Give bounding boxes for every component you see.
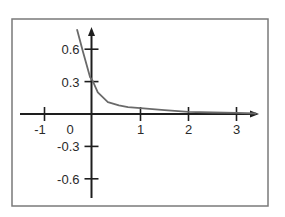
x-tick-label: 1 [137,122,144,137]
y-tick-label: 0.6 [61,42,79,57]
x-tick-label: 3 [233,122,240,137]
y-tick-label: 0.3 [61,75,79,90]
y-tick-label: -0.3 [57,139,79,154]
x-tick-label: 2 [185,122,192,137]
x-tick-label: 0 [66,122,73,137]
y-tick-label: -0.6 [57,172,79,187]
x-tick-label: -1 [34,122,46,137]
chart: -101230.60.3-0.3-0.6 [0,0,285,217]
